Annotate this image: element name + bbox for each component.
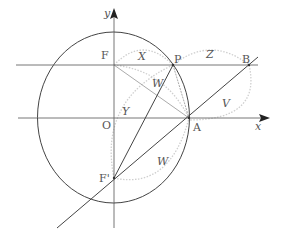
label-f: F [101,49,109,62]
arc-label-v: V [222,97,231,110]
label-b: B [242,53,250,66]
arc-label-z: Z [205,48,214,61]
x-axis-label: x [255,120,262,133]
origin-label: O [102,119,111,132]
segment-p-a [173,65,189,118]
point-a [188,117,190,119]
label-p: P [174,53,182,66]
dotted-arcs [111,50,251,180]
ellipse-diagram: y x O F F' P A B X Z W Y V W [0,0,282,236]
y-axis-label: y [103,7,111,20]
arc-label-x: X [137,50,147,63]
point-f-prime [113,177,115,179]
label-a: A [192,121,202,134]
label-f-prime: F' [99,172,110,185]
arc-label-y: Y [122,105,131,118]
arc-v [189,65,251,120]
arc-label-w-lower: W [157,155,170,168]
axes [18,14,264,228]
arc-label-w-upper: W [152,77,165,90]
